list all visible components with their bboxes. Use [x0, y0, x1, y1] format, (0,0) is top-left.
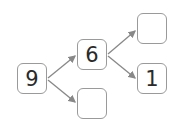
node-root: 9 [17, 63, 47, 94]
arrow-mid-top-to-right-bottom [108, 56, 135, 78]
node-mid-top: 6 [77, 39, 107, 70]
node-right-top-empty[interactable] [137, 13, 167, 44]
node-mid-bottom-empty[interactable] [77, 88, 107, 119]
arrow-mid-top-to-right-top [108, 31, 135, 54]
arrow-root-to-mid-top [48, 56, 75, 78]
node-right-bottom: 1 [137, 63, 167, 94]
arrow-root-to-mid-bottom [48, 80, 75, 102]
